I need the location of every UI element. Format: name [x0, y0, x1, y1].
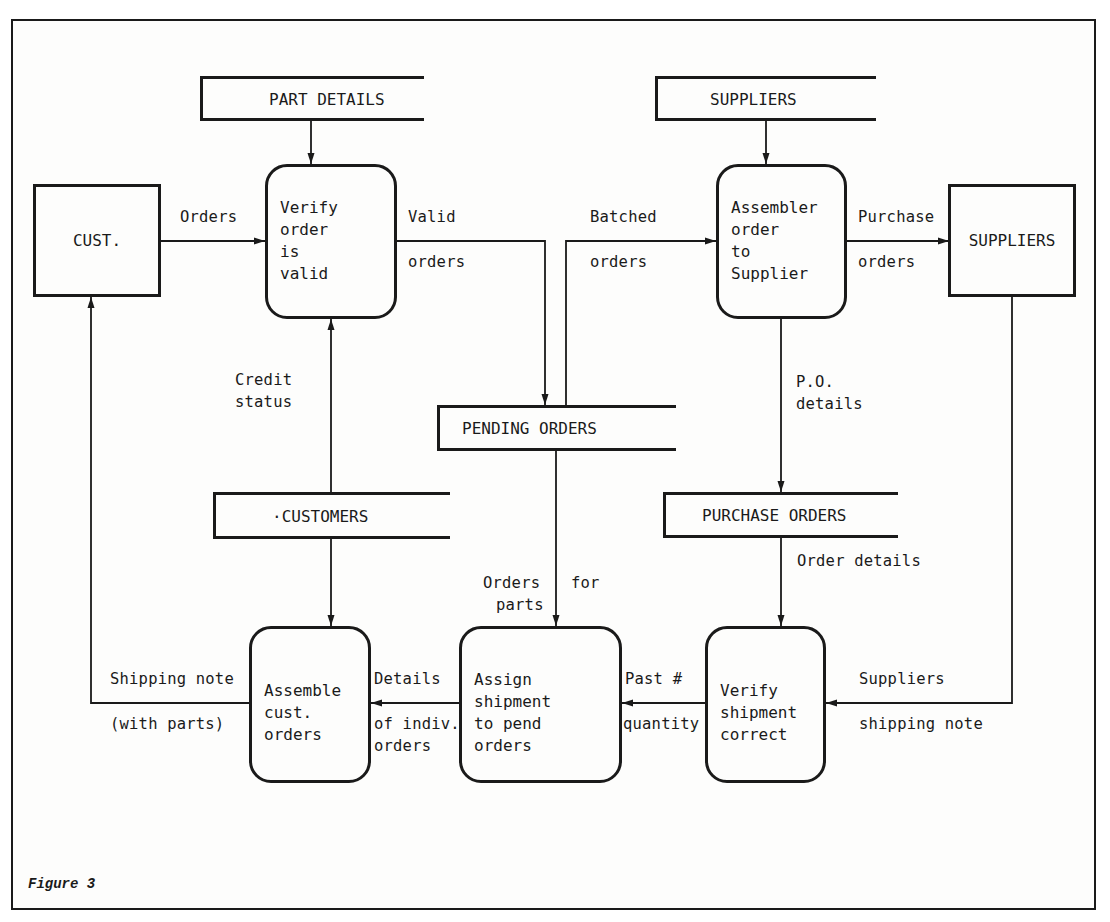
- process-verify-shipment[interactable]: Verify shipment correct: [705, 626, 826, 783]
- flow-label-details: Details: [374, 669, 441, 690]
- store-pending-orders[interactable]: PENDING ORDERS: [437, 405, 676, 451]
- flow-label-orders-for: Orders: [483, 573, 540, 594]
- store-part-details[interactable]: PART DETAILS: [200, 76, 424, 121]
- process-assign-shipment-label: Assign shipment to pend orders: [474, 669, 551, 757]
- flow-label-valid-orders: orders: [408, 252, 465, 273]
- flow-label-credit-status: status: [235, 392, 292, 413]
- flow-label-past: Past #: [625, 669, 682, 690]
- flow-lines: [0, 0, 1110, 922]
- flow-label-suppliers: Suppliers: [859, 669, 945, 690]
- flow-label-credit: Credit: [235, 370, 292, 391]
- figure-caption: Figure 3: [28, 876, 95, 892]
- entity-suppliers[interactable]: SUPPLIERS: [948, 184, 1076, 297]
- process-assign-shipment[interactable]: Assign shipment to pend orders: [459, 626, 622, 783]
- store-suppliers[interactable]: SUPPLIERS: [655, 76, 876, 121]
- process-verify-shipment-label: Verify shipment correct: [720, 680, 797, 746]
- process-assemble-cust-orders-label: Assemble cust. orders: [264, 680, 341, 746]
- flow-label-parts: parts: [496, 595, 544, 616]
- process-verify-order-label: Verify order is valid: [280, 197, 338, 285]
- flow-label-of-indiv: of indiv.: [374, 714, 460, 735]
- flow-label-purchase-orders: orders: [858, 252, 915, 273]
- store-customers[interactable]: ·CUSTOMERS: [213, 492, 450, 539]
- flow-label-with-parts: (with parts): [110, 714, 224, 735]
- store-pending-orders-label: PENDING ORDERS: [462, 419, 597, 438]
- process-assemble-cust-orders[interactable]: Assemble cust. orders: [249, 626, 371, 783]
- flow-label-batched-orders: orders: [590, 252, 647, 273]
- flow-label-valid: Valid: [408, 207, 456, 228]
- flow-label-order-details: Order details: [797, 551, 921, 572]
- flow-label-indiv-orders: orders: [374, 736, 431, 757]
- store-purchase-orders-label: PURCHASE ORDERS: [702, 506, 847, 525]
- entity-customer-label: CUST.: [73, 231, 121, 250]
- flow-label-quantity: quantity: [623, 714, 699, 735]
- flow-label-shipping-note: Shipping note: [110, 669, 234, 690]
- flow-label-po-details: details: [796, 394, 863, 415]
- store-part-details-label: PART DETAILS: [269, 89, 385, 108]
- flow-label-batched: Batched: [590, 207, 657, 228]
- process-verify-order[interactable]: Verify order is valid: [265, 164, 397, 319]
- store-suppliers-label: SUPPLIERS: [710, 89, 797, 108]
- process-assemble-supplier-order-label: Assembler order to Supplier: [731, 197, 818, 285]
- store-customers-label: ·CUSTOMERS: [272, 506, 368, 525]
- store-purchase-orders[interactable]: PURCHASE ORDERS: [663, 492, 898, 538]
- flow-label-orders: Orders: [180, 207, 237, 228]
- flow-label-supplier-shipping-note: shipping note: [859, 714, 983, 735]
- flow-label-po: P.O.: [796, 372, 834, 393]
- entity-customer[interactable]: CUST.: [33, 184, 161, 297]
- process-assemble-supplier-order[interactable]: Assembler order to Supplier: [716, 164, 847, 319]
- flow-label-for: for: [571, 573, 600, 594]
- entity-suppliers-label: SUPPLIERS: [969, 231, 1056, 250]
- flow-label-purchase: Purchase: [858, 207, 934, 228]
